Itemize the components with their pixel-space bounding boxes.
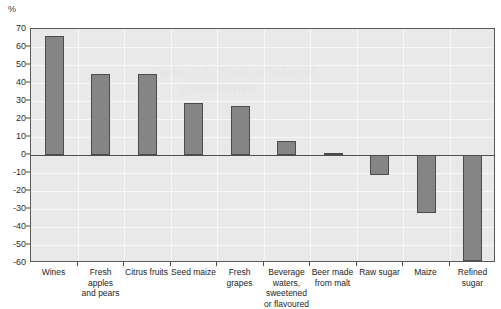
vertical-gridline — [264, 29, 265, 261]
x-axis-label-line: Beer made — [309, 267, 356, 278]
x-axis-tick-mark — [123, 262, 124, 266]
y-axis-tick-mark — [26, 64, 30, 65]
chart-bar — [324, 153, 343, 155]
y-axis-tick-label: -40 — [0, 221, 26, 231]
vertical-gridline — [124, 29, 125, 261]
x-axis-category-label: Beveragewaters,sweetenedor flavoured — [263, 267, 310, 309]
y-axis-tick-mark — [26, 244, 30, 245]
x-axis-category-label: Seed maize — [170, 267, 217, 278]
y-axis-tick-label: 0 — [0, 149, 26, 159]
x-axis-label-line: Refined — [449, 267, 496, 278]
x-axis-category-label: Fresh grapes — [216, 267, 263, 288]
vertical-gridline — [357, 29, 358, 261]
x-axis-label-line: waters, — [263, 278, 310, 289]
y-axis-tick-label: 20 — [0, 113, 26, 123]
y-axis-tick-mark — [26, 100, 30, 101]
x-axis-category-label: Beer madefrom malt — [309, 267, 356, 288]
x-axis-tick-mark — [170, 262, 171, 266]
x-axis-tick-mark — [216, 262, 217, 266]
y-axis-tick-label: 50 — [0, 59, 26, 69]
x-axis-label-line: sugar — [449, 278, 496, 289]
x-axis-category-label: Refinedsugar — [449, 267, 496, 288]
horizontal-gridline — [31, 245, 494, 246]
x-axis-label-line: or flavoured — [263, 299, 310, 309]
vertical-gridline — [450, 29, 451, 261]
y-axis: 706050403020100-10-20-30-40-50-60 — [0, 0, 26, 306]
x-axis-label-line: and pears — [77, 288, 124, 299]
x-axis-label-line: Wines — [30, 267, 77, 278]
x-axis-tick-mark — [309, 262, 310, 266]
chart-bar — [417, 155, 436, 213]
y-axis-tick-label: 70 — [0, 23, 26, 33]
chart-bar — [184, 103, 203, 155]
x-axis-category-label: Fresh applesand pears — [77, 267, 124, 299]
plot-area: Figure 2.1. Trade of selected commoditie… — [30, 28, 495, 262]
chart-bar — [91, 74, 110, 155]
y-axis-tick-label: -60 — [0, 257, 26, 267]
chart-bar — [45, 36, 64, 155]
vertical-gridline — [310, 29, 311, 261]
chart-bar — [463, 155, 482, 261]
x-axis-category-label: Maize — [402, 267, 449, 278]
y-axis-tick-label: 40 — [0, 77, 26, 87]
vertical-gridline — [171, 29, 172, 261]
x-axis-label-line: Seed maize — [170, 267, 217, 278]
y-axis-tick-label: 30 — [0, 95, 26, 105]
y-axis-tick-label: -20 — [0, 185, 26, 195]
vertical-gridline — [403, 29, 404, 261]
plot-inner: Figure 2.1. Trade of selected commoditie… — [31, 29, 494, 261]
y-axis-tick-mark — [26, 46, 30, 47]
horizontal-gridline — [31, 227, 494, 228]
y-axis-tick-label: -10 — [0, 167, 26, 177]
horizontal-gridline — [31, 65, 494, 66]
y-axis-tick-label: -50 — [0, 239, 26, 249]
x-axis-label-line: Maize — [402, 267, 449, 278]
y-axis-tick-mark — [26, 172, 30, 173]
y-axis-tick-mark — [26, 226, 30, 227]
x-axis-category-label: Citrus fruits — [123, 267, 170, 278]
x-axis-label-line: Fresh apples — [77, 267, 124, 288]
y-axis-tick-label: -30 — [0, 203, 26, 213]
scan-bleed-line-1: Figure 2.1. Trade of selected — [151, 65, 317, 80]
x-axis-label-line: Fresh grapes — [216, 267, 263, 288]
x-axis: WinesFresh applesand pearsCitrus fruitsS… — [30, 262, 495, 306]
x-axis-label-line: Beverage — [263, 267, 310, 278]
x-axis-tick-mark — [77, 262, 78, 266]
x-axis-label-line: sweetened — [263, 288, 310, 299]
x-axis-tick-mark — [449, 262, 450, 266]
y-axis-tick-label: 60 — [0, 41, 26, 51]
x-axis-tick-mark — [263, 262, 264, 266]
y-axis-tick-mark — [26, 190, 30, 191]
chart-bar — [231, 106, 250, 155]
vertical-gridline — [78, 29, 79, 261]
x-axis-tick-mark — [356, 262, 357, 266]
x-axis-category-label: Wines — [30, 267, 77, 278]
x-axis-label-line: Citrus fruits — [123, 267, 170, 278]
chart-bar — [277, 141, 296, 155]
x-axis-category-label: Raw sugar — [356, 267, 403, 278]
y-axis-tick-mark — [26, 154, 30, 155]
y-axis-tick-mark — [26, 208, 30, 209]
y-axis-tick-mark — [26, 118, 30, 119]
y-axis-tick-mark — [26, 82, 30, 83]
chart-bar — [370, 155, 389, 175]
x-axis-tick-mark — [402, 262, 403, 266]
horizontal-gridline — [31, 47, 494, 48]
vertical-gridline — [217, 29, 218, 261]
x-axis-label-line: Raw sugar — [356, 267, 403, 278]
y-axis-tick-mark — [26, 136, 30, 137]
y-axis-tick-label: 10 — [0, 131, 26, 141]
x-axis-label-line: from malt — [309, 278, 356, 289]
chart-bar — [138, 74, 157, 155]
